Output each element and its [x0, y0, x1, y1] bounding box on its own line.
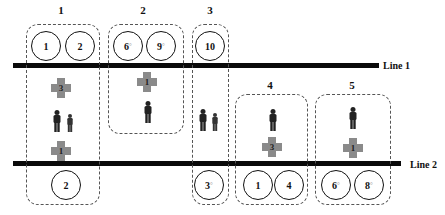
group-1-cross-lower-icon: 1	[51, 141, 71, 161]
person-icon	[144, 101, 153, 123]
group-5-circle-a: 6°	[321, 170, 351, 200]
person-icon	[199, 109, 208, 131]
group-1-circle-c: 2	[51, 170, 81, 200]
group-4-cross-icon: 3	[262, 137, 282, 157]
group-2-cross-icon: 1	[137, 72, 157, 92]
line-2-label: Line 2	[410, 159, 437, 170]
group-2-label: 2	[140, 4, 146, 16]
group-3-label: 3	[207, 4, 213, 16]
group-5-label: 5	[349, 79, 355, 91]
group-1-circle-a: 1	[31, 31, 61, 61]
person-icon	[53, 110, 62, 132]
group-1-label: 1	[58, 4, 64, 16]
group-5-cross-icon: 1	[343, 138, 363, 158]
group-2-circle-a: 6°	[113, 31, 143, 61]
group-4-label: 4	[267, 79, 273, 91]
person-icon	[67, 114, 74, 132]
group-3-circle-b: 3°	[194, 170, 224, 200]
person-icon	[269, 109, 278, 131]
group-1-circle-b: 2	[65, 31, 95, 61]
group-2-circle-b: 9°	[146, 31, 176, 61]
group-4-circle-a: 1	[243, 170, 273, 200]
line-1-label: Line 1	[383, 60, 410, 71]
group-5-circle-b: 8°	[354, 170, 384, 200]
group-3-circle-a: 10	[195, 31, 225, 61]
group-4-circle-b: 4	[274, 170, 304, 200]
person-icon	[349, 107, 358, 129]
group-1-cross-upper-icon: 3	[51, 78, 71, 98]
person-icon	[212, 113, 219, 131]
